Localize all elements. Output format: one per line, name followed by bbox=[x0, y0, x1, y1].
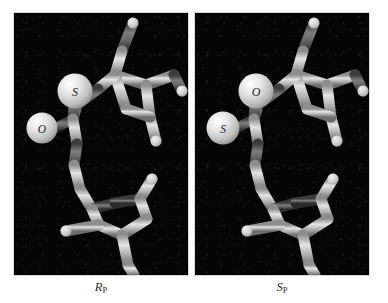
molecule-diagram-right: O S bbox=[195, 13, 369, 275]
panel-right-sp: O S bbox=[195, 13, 369, 275]
sulfur-sphere-label: S bbox=[72, 85, 78, 99]
panel-left-rp: S O bbox=[14, 13, 188, 275]
atom-sphere-group-right: O S bbox=[207, 74, 274, 145]
caption-right: SP bbox=[195, 280, 369, 295]
molecule-render-left: S O bbox=[14, 13, 188, 275]
sulfur-sphere-label: S bbox=[220, 123, 226, 135]
molecule-render-right: O S bbox=[195, 13, 369, 275]
atom-sphere-group-left: S O bbox=[27, 74, 93, 144]
molecule-diagram-left: S O bbox=[14, 13, 188, 275]
oxygen-sphere-label: O bbox=[38, 123, 47, 135]
caption-left: RP bbox=[14, 280, 188, 295]
caption-left-stereo-letter: R bbox=[95, 280, 103, 294]
stereo-pair-figure: S O RP bbox=[0, 0, 388, 303]
caption-right-subscript: P bbox=[283, 285, 288, 295]
caption-left-subscript: P bbox=[103, 285, 108, 295]
oxygen-sphere-label: O bbox=[252, 85, 261, 99]
